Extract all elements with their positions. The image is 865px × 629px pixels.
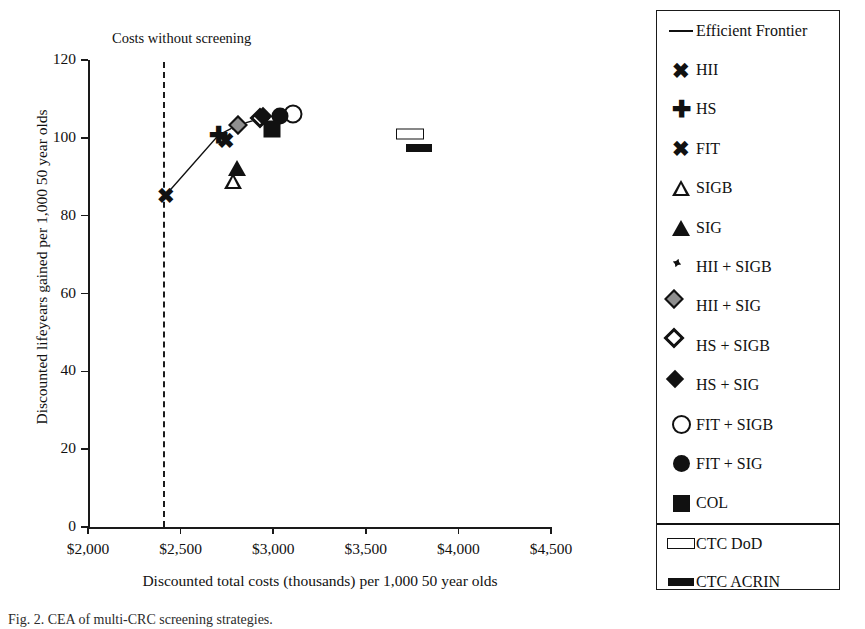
legend-item-label: Efficient Frontier	[696, 22, 807, 40]
y-tick-label-text: 0	[30, 518, 76, 534]
legend-item-col[interactable]: COL	[657, 484, 839, 523]
x-tick-label: $4,500	[511, 540, 591, 558]
legend-item-label: HS + SIG	[696, 376, 759, 394]
costs-without-screening-line	[163, 62, 165, 527]
legend-item-label: FIT	[696, 140, 720, 158]
legend-marker-icon	[666, 208, 696, 247]
legend-item-label: SIG	[696, 219, 722, 237]
legend-marker-icon	[666, 326, 696, 365]
legend-item-hs-plus-sig[interactable]: HS + SIG	[657, 366, 839, 405]
legend-item-label: CTC ACRIN	[696, 573, 780, 591]
data-point-ctc-acrin	[406, 144, 432, 152]
data-point-col	[264, 120, 281, 137]
legend-marker-icon	[666, 247, 696, 286]
legend-item-label: CTC DoD	[696, 535, 762, 553]
chart-legend: Efficient Frontier✖HII✚HS✖FITSIGBSIGHII …	[656, 10, 840, 590]
legend-item-label: SIGB	[696, 179, 732, 197]
legend-item-sigb[interactable]: SIGB	[657, 169, 839, 208]
y-tick	[81, 448, 88, 450]
legend-item-fit-plus-sigb[interactable]: FIT + SIGB	[657, 405, 839, 444]
y-tick	[81, 215, 88, 217]
x-tick	[550, 527, 552, 534]
legend-item-hii-plus-sig[interactable]: HII + SIG	[657, 287, 839, 326]
x-tick	[458, 527, 460, 534]
legend-item-label: COL	[696, 494, 728, 512]
x-tick-label: $3,000	[233, 540, 313, 558]
legend-item-fit-plus-sig[interactable]: FIT + SIG	[657, 444, 839, 483]
legend-item-hs-plus-sigb[interactable]: HS + SIGB	[657, 326, 839, 365]
y-tick	[81, 137, 88, 139]
data-point-fit: ✖	[217, 129, 235, 150]
legend-marker-icon	[666, 11, 696, 50]
x-axis-title: Discounted total costs (thousands) per 1…	[60, 572, 580, 590]
legend-item-label: HS + SIGB	[696, 337, 770, 355]
x-tick-label: $2,500	[141, 540, 221, 558]
legend-item-ctc-dod[interactable]: CTC DoD	[657, 523, 839, 562]
efficient-frontier-line	[0, 0, 650, 629]
x-tick-label: $4,000	[418, 540, 498, 558]
legend-marker-icon	[666, 484, 696, 523]
legend-item-efficient-frontier[interactable]: Efficient Frontier	[657, 11, 839, 50]
y-axis-title: Discounted lifeyears gained per 1,000 50…	[33, 57, 51, 477]
legend-marker-icon	[666, 287, 696, 326]
legend-marker-icon: ✖	[666, 129, 696, 168]
legend-item-hs[interactable]: ✚HS	[657, 90, 839, 129]
legend-item-label: HII + SIGB	[696, 258, 772, 276]
data-point-hii: ✖	[157, 185, 175, 206]
y-tick	[81, 371, 88, 373]
y-tick	[81, 59, 88, 61]
x-tick	[180, 527, 182, 534]
costs-without-screening-label: Costs without screening	[112, 30, 251, 47]
legend-item-fit[interactable]: ✖FIT	[657, 129, 839, 168]
legend-item-hii-plus-sigb[interactable]: HII + SIGB	[657, 247, 839, 286]
legend-marker-icon	[666, 444, 696, 483]
legend-item-label: FIT + SIG	[696, 455, 763, 473]
legend-marker-icon: ✚	[666, 90, 696, 129]
legend-item-label: HII + SIG	[696, 297, 761, 315]
x-axis-line	[88, 527, 551, 529]
chart-plot-area: 020406080100120 $2,000$2,500$3,000$3,500…	[0, 0, 650, 629]
legend-marker-icon	[666, 525, 696, 562]
y-tick-label: 0	[24, 518, 76, 534]
legend-item-ctc-acrin[interactable]: CTC ACRIN	[657, 562, 839, 601]
x-tick	[87, 527, 89, 534]
y-axis-line	[88, 60, 90, 527]
legend-marker-icon	[666, 169, 696, 208]
legend-item-label: FIT + SIGB	[696, 416, 773, 434]
legend-item-label: HII	[696, 61, 718, 79]
legend-item-hii[interactable]: ✖HII	[657, 50, 839, 89]
x-tick-label: $3,500	[326, 540, 406, 558]
x-tick-label: $2,000	[48, 540, 128, 558]
legend-item-sig[interactable]: SIG	[657, 208, 839, 247]
x-tick	[365, 527, 367, 534]
figure-caption: Fig. 2. CEA of multi-CRC screening strat…	[8, 612, 568, 629]
data-point-ctc-dod	[396, 128, 424, 139]
legend-marker-icon	[666, 366, 696, 405]
legend-marker-icon: ✖	[666, 50, 696, 89]
data-markers: ✖✚✖	[0, 0, 650, 16]
y-tick	[81, 293, 88, 295]
legend-marker-icon	[666, 562, 696, 601]
legend-marker-icon	[666, 405, 696, 444]
data-point-sig	[228, 160, 246, 176]
legend-item-label: HS	[696, 100, 716, 118]
x-tick	[272, 527, 274, 534]
